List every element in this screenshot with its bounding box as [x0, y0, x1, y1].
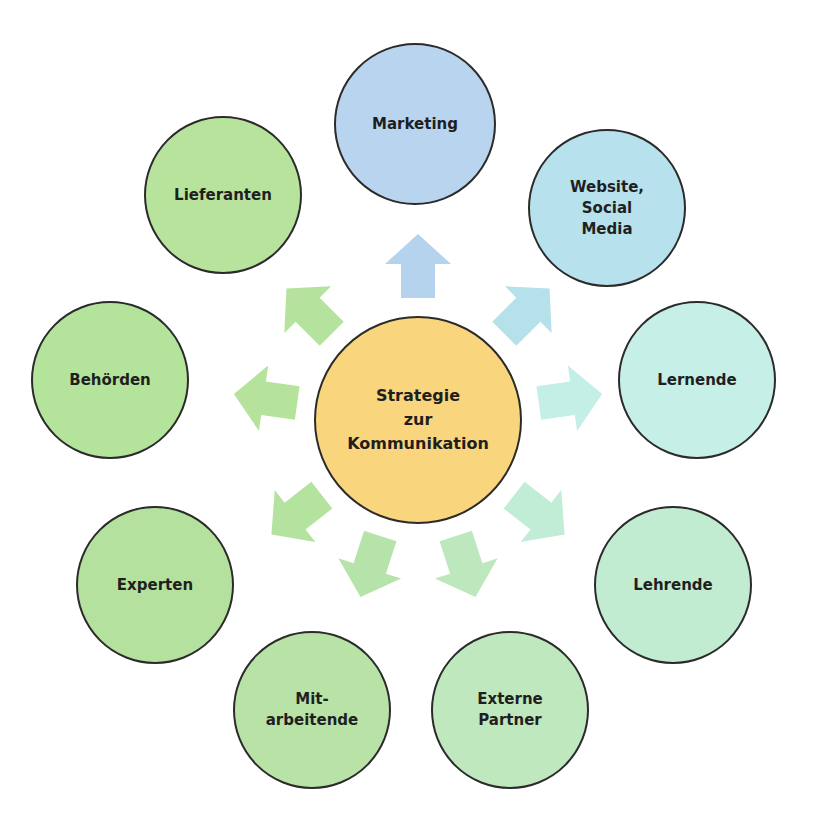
arrow-icon-experten	[251, 469, 342, 560]
node-label-behoerden: Behörden	[35, 370, 185, 391]
node-label-website: Website, Social Media	[532, 177, 682, 240]
arrow-icon-lernende	[534, 361, 607, 435]
center-label: Strategie zur Kommunikation	[323, 384, 513, 456]
node-label-mitarbeitende: Mit- arbeitende	[237, 689, 387, 731]
arrow-icon-externe-partner	[424, 526, 507, 607]
arrow-icon-mitarbeitende	[329, 526, 412, 607]
node-label-externe-partner: Externe Partner	[435, 689, 585, 731]
node-label-lehrende: Lehrende	[598, 575, 748, 596]
arrow-icon-behoerden	[229, 361, 302, 435]
node-label-experten: Experten	[80, 575, 230, 596]
arrow-icon-website	[481, 265, 573, 357]
arrow-icon-lieferanten	[263, 265, 355, 357]
node-label-lernende: Lernende	[622, 370, 772, 391]
arrow-icon-lehrende	[494, 469, 585, 560]
node-label-marketing: Marketing	[340, 114, 490, 135]
node-label-lieferanten: Lieferanten	[148, 185, 298, 206]
arrow-icon-marketing	[385, 234, 451, 298]
